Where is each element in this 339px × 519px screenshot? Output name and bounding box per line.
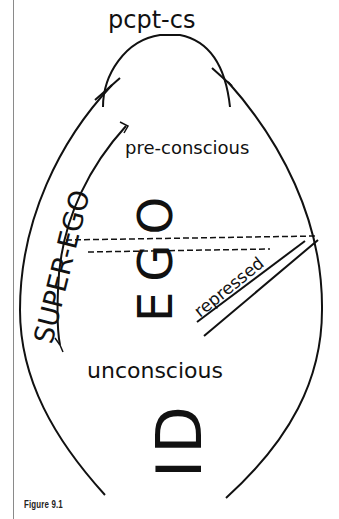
preconscious-label: pre-conscious (125, 137, 249, 158)
ego-label: EGO (127, 187, 183, 322)
superego-label: SUPER-EGO (28, 187, 96, 347)
preconscious-boundary-dashed (66, 236, 315, 240)
pcpt-cs-cap (103, 35, 230, 107)
repressed-label: repressed (190, 253, 268, 321)
freud-psyche-diagram: pcpt-cs pre-conscious SUPER-EGO EGO repr… (0, 0, 339, 519)
figure-caption: Figure 9.1 (24, 498, 63, 510)
pcpt-cs-label: pcpt-cs (108, 6, 195, 34)
unconscious-label: unconscious (87, 358, 223, 383)
id-label: ID (143, 400, 216, 478)
